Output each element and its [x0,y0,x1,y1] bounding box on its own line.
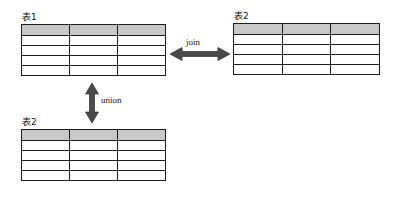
table-row [22,46,166,56]
table-2-right-label: 表2 [233,11,380,22]
table-cell [282,45,331,55]
table-cell [118,161,166,171]
table-cell [118,171,166,181]
table-cell [118,36,166,46]
table-cell [234,55,283,65]
double-arrow-vertical-icon [84,83,100,123]
table-row [234,65,380,75]
table-cell [22,46,70,56]
table-header-cell [234,24,283,35]
table-block-table-1[interactable]: 表1 [21,12,166,76]
table-cell [331,45,380,55]
table-header-cell [118,130,166,141]
union-connector[interactable] [84,83,100,127]
table-cell [22,171,70,181]
table-row [22,130,166,141]
table-cell [282,55,331,65]
table-cell [70,141,118,151]
table-row [22,66,166,76]
table-cell [331,35,380,45]
join-connector-label: join [186,37,200,48]
union-connector-label: union [101,95,122,106]
table-header-cell [331,24,380,35]
table-cell [22,36,70,46]
table-cell [70,161,118,171]
table-row [22,151,166,161]
table-cell [118,66,166,76]
table-cell [70,56,118,66]
double-arrow-horizontal-icon [170,46,230,62]
table-row [22,171,166,181]
table-row [22,56,166,66]
table-1-label: 表1 [21,12,166,23]
table-header-cell [22,25,70,36]
table-cell [331,55,380,65]
table-row [22,36,166,46]
table-2-right-grid[interactable] [233,23,380,75]
table-cell [22,56,70,66]
table-cell [70,46,118,56]
table-row [234,45,380,55]
table-cell [282,65,331,75]
table-cell [282,35,331,45]
table-cell [22,151,70,161]
table-1-grid[interactable] [21,24,166,76]
table-row [234,24,380,35]
table-cell [118,46,166,56]
table-cell [70,171,118,181]
table-row [234,55,380,65]
table-cell [22,66,70,76]
table-header-cell [22,130,70,141]
diagram-canvas: 表1 [0,0,403,204]
table-header-cell [118,25,166,36]
table-cell [234,35,283,45]
table-2-bottom-grid[interactable] [21,129,166,181]
table-cell [331,65,380,75]
table-cell [234,45,283,55]
table-cell [234,65,283,75]
table-row [22,141,166,151]
table-cell [118,151,166,161]
table-cell [118,141,166,151]
join-connector[interactable] [170,46,230,66]
table-cell [22,161,70,171]
table-cell [118,56,166,66]
table-cell [70,66,118,76]
table-row [234,35,380,45]
table-header-cell [282,24,331,35]
table-cell [22,141,70,151]
table-cell [70,151,118,161]
table-cell [70,36,118,46]
table-block-table-2-right[interactable]: 表2 [233,11,380,75]
table-header-cell [70,25,118,36]
table-header-cell [70,130,118,141]
table-row [22,161,166,171]
table-row [22,25,166,36]
